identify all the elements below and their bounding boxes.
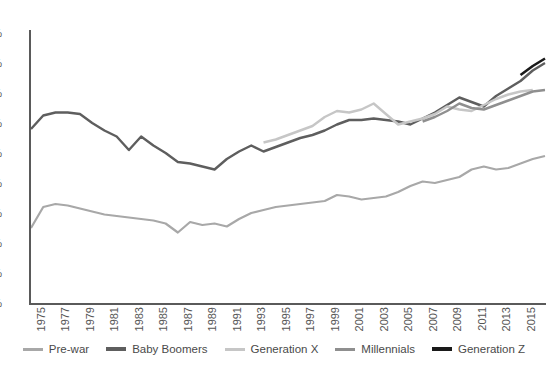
x-tick-label: 2013	[501, 307, 512, 331]
y-axis-line	[29, 30, 31, 305]
legend-swatch-icon	[335, 348, 355, 351]
y-tick-label: 0%	[0, 238, 2, 249]
x-tick-label: 1985	[158, 307, 169, 331]
x-tick-label: 2011	[477, 307, 488, 331]
legend-item[interactable]: Generation X	[225, 343, 319, 355]
x-tick-label: 1981	[109, 307, 120, 331]
line-chart: 0%0%0%0%0%0%0%0%0%0% 1975197719791981198…	[0, 0, 548, 372]
x-tick-label: 1979	[85, 307, 96, 331]
series-lines	[0, 0, 548, 312]
x-tick-label: 1997	[305, 307, 316, 331]
series-line-pre-war	[31, 156, 545, 233]
y-tick-label: 0%	[0, 208, 2, 219]
x-tick-label: 1989	[207, 307, 218, 331]
series-line-baby-boomers	[31, 63, 545, 170]
y-tick-label: 0%	[0, 28, 2, 39]
x-tick-label: 1999	[330, 307, 341, 331]
legend-label: Baby Boomers	[132, 343, 207, 355]
x-tick-label: 1975	[36, 307, 47, 331]
legend-swatch-icon	[23, 348, 43, 351]
x-tick-label: 1995	[281, 307, 292, 331]
series-line-generation-z	[521, 59, 545, 76]
x-tick-label: 2009	[452, 307, 463, 331]
y-tick-label: 0%	[0, 118, 2, 129]
y-tick-label: 0%	[0, 88, 2, 99]
x-tick-label: 1987	[183, 307, 194, 331]
legend-item[interactable]: Baby Boomers	[106, 343, 207, 355]
y-tick-label: 0%	[0, 148, 2, 159]
x-tick-label: 2007	[428, 307, 439, 331]
x-tick-label: 2015	[526, 307, 537, 331]
legend-item[interactable]: Generation Z	[432, 343, 525, 355]
y-tick-label: 0%	[0, 58, 2, 69]
legend-label: Generation X	[251, 343, 319, 355]
x-tick-label: 1991	[232, 307, 243, 331]
x-tick-label: 1977	[60, 307, 71, 331]
y-tick-label: 0%	[0, 268, 2, 279]
legend-item[interactable]: Pre-war	[23, 343, 89, 355]
chart-legend: Pre-warBaby BoomersGeneration XMillennia…	[0, 338, 548, 360]
x-tick-label: 2005	[403, 307, 414, 331]
legend-label: Generation Z	[458, 343, 525, 355]
x-tick-label: 1993	[256, 307, 267, 331]
x-tick-label: 1983	[134, 307, 145, 331]
y-tick-label: 0%	[0, 178, 2, 189]
plot-area: 0%0%0%0%0%0%0%0%0%0%	[0, 0, 548, 312]
x-tick-label: 2003	[379, 307, 390, 331]
y-axis-tick-labels: 0%0%0%0%0%0%0%0%0%0%	[0, 0, 29, 312]
x-tick-label: 2001	[354, 307, 365, 331]
legend-item[interactable]: Millennials	[335, 343, 415, 355]
legend-label: Millennials	[361, 343, 415, 355]
legend-swatch-icon	[225, 348, 245, 351]
legend-swatch-icon	[432, 347, 452, 351]
legend-swatch-icon	[106, 347, 126, 351]
legend-label: Pre-war	[49, 343, 89, 355]
